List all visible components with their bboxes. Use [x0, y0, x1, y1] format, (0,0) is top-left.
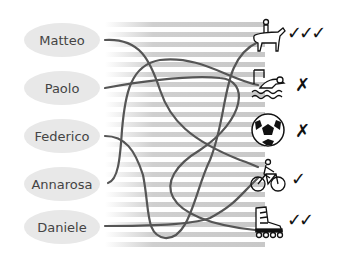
rating-horse-riding: ✓✓✓	[287, 22, 323, 43]
soccer-ball-icon	[250, 112, 286, 148]
name-bubble-annarosa: Annarosa	[24, 167, 100, 201]
name-bubble-paolo: Paolo	[24, 71, 100, 105]
maze-line-daniele	[105, 178, 258, 226]
name-bubble-daniele: Daniele	[24, 210, 100, 244]
maze-line-paolo	[105, 77, 255, 230]
rating-swimming: ✗	[295, 74, 310, 95]
rating-soccer: ✗	[295, 120, 310, 141]
inline-skate-icon	[250, 204, 286, 240]
rating-skating: ✓✓	[287, 209, 311, 230]
name-bubble-matteo: Matteo	[24, 23, 100, 57]
cyclist-icon	[250, 158, 286, 194]
swimmer-icon	[250, 66, 286, 102]
rating-cycling: ✓	[291, 168, 306, 189]
name-bubble-federico: Federico	[24, 119, 100, 153]
horse-rider-icon	[250, 18, 286, 54]
